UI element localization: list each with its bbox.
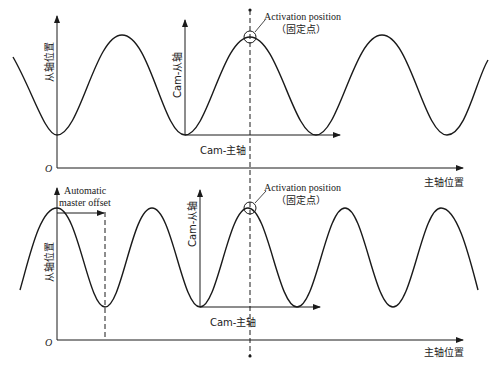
activation-line-top-dot (248, 8, 251, 11)
bottom-y-axis-label: 从轴位置 (43, 242, 55, 282)
bottom-cam-slave-label: Cam-从轴 (186, 201, 198, 247)
top-origin-label: O (45, 163, 52, 174)
bottom-origin-label: O (45, 337, 52, 348)
top-cam-master-label: Cam-主轴 (200, 144, 246, 156)
offset-label-line2: master offset (59, 197, 111, 208)
offset-label-line1: Automatic (64, 185, 107, 196)
bottom-panel: O 从轴位置 主轴位置 Automatic master offset Cam-… (20, 182, 478, 358)
bottom-activation-sub-label: （固定点） (276, 194, 326, 206)
activation-line-bottom-dot (248, 354, 251, 357)
bottom-cam-master-label: Cam-主轴 (210, 316, 256, 328)
cam-activation-diagram: O 从轴位置 主轴位置 Cam-从轴 Cam-主轴 Activation pos… (0, 0, 496, 368)
top-cam-slave-label: Cam-从轴 (171, 52, 183, 98)
top-x-axis-label: 主轴位置 (424, 176, 464, 188)
top-activation-sub-label: （固定点） (276, 23, 326, 35)
bottom-cam-curve (20, 208, 478, 307)
bottom-activation-label: Activation position (264, 182, 341, 193)
top-activation-label: Activation position (264, 11, 341, 22)
top-y-axis-label: 从轴位置 (43, 42, 55, 82)
bottom-x-axis-label: 主轴位置 (424, 346, 464, 358)
